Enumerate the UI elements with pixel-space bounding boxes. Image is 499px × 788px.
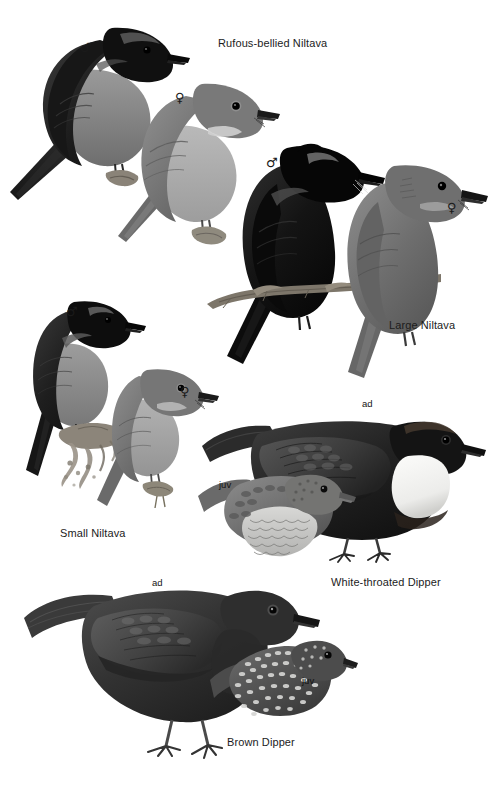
sex-symbol-female-large-niltava: ♀ <box>447 201 457 214</box>
sex-symbol-female-rufous-bellied-niltava: ♀ <box>175 91 185 104</box>
plate-label-white-throated-dipper: White-throated Dipper <box>331 577 441 588</box>
sex-symbol-female-small-niltava: ♀ <box>180 385 190 398</box>
field-guide-plate-page: ♂ ♀ Rufous-bellied Niltava <box>0 0 499 788</box>
age-label-juv-white-throated-dipper: juv <box>219 480 231 490</box>
sex-symbol-male-small-niltava: ♂ <box>66 305 78 318</box>
bird-white-throated-dipper-juvenile <box>196 462 356 562</box>
age-label-juv-brown-dipper: juv <box>302 676 314 686</box>
age-label-ad-white-throated-dipper: ad <box>362 399 373 409</box>
plate-label-small-niltava: Small Niltava <box>60 528 126 539</box>
plate-label-rufous-bellied-niltava: Rufous-bellied Niltava <box>218 38 327 49</box>
sex-symbol-male-large-niltava: ♂ <box>266 156 278 169</box>
bird-large-niltava-female <box>320 158 495 388</box>
sex-symbol-male-rufous-bellied-niltava: ♂ <box>80 41 92 54</box>
bird-brown-dipper-juvenile <box>208 630 358 725</box>
plate-label-brown-dipper: Brown Dipper <box>227 737 295 748</box>
plate-label-large-niltava: Large Niltava <box>389 320 455 331</box>
age-label-ad-brown-dipper: ad <box>152 578 163 588</box>
